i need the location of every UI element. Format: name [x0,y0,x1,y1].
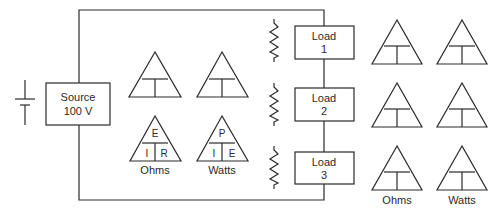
formula-triangle-blank-1 [129,52,181,97]
load-1-ohms-triangle [372,20,422,64]
right-triangles-grid: Ohms Watts [372,20,487,206]
resistor-icon-2 [270,83,278,126]
load-box-1: Load 1 [295,26,354,59]
ohms-label: Ohms [140,164,170,176]
triangle-top-cell: E [152,128,159,139]
formula-triangle-blank-2 [197,52,248,97]
triangle-left-cell: I [146,148,149,159]
battery-icon [15,80,35,125]
ohms-law-triangle: E I R Ohms [130,116,181,176]
load-2-ohms-triangle [372,83,422,127]
circuit-diagram: Source 100 V Load 1 Load 2 Load 3 [0,0,502,216]
source-label: Source [61,91,96,103]
source-box: Source 100 V [46,83,110,125]
load-label: Load [312,92,336,104]
load-3-ohms-triangle [372,146,422,190]
triangle-right-cell: E [229,148,236,159]
source-voltage: 100 V [64,105,93,117]
watts-label: Watts [208,164,236,176]
triangle-right-cell: R [160,148,167,159]
load-label: Load [312,30,336,42]
load-number: 3 [321,169,327,181]
load-3-watts-triangle [437,146,487,190]
load-1-watts-triangle [437,20,487,64]
load-box-3: Load 3 [295,152,354,184]
resistor-icon-3 [270,146,278,189]
triangle-top-cell: P [219,128,226,139]
triangle-left-cell: I [213,148,216,159]
watts-law-triangle: P I E Watts [197,116,248,176]
load-number: 1 [321,43,327,55]
circuit-wires [79,10,324,200]
load-box-2: Load 2 [295,88,354,121]
ohms-column-label: Ohms [382,194,412,206]
load-number: 2 [321,105,327,117]
watts-column-label: Watts [448,194,476,206]
load-label: Load [312,156,336,168]
load-2-watts-triangle [437,83,487,127]
resistor-icon-1 [270,19,278,62]
